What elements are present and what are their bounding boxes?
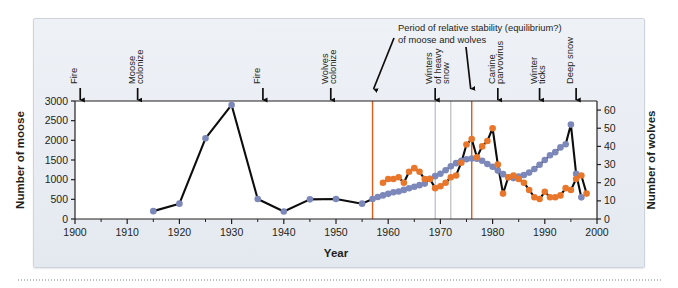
series-1-point-15 bbox=[458, 159, 465, 166]
y-axis-title-right: Number of wolves bbox=[645, 110, 657, 209]
event-label-3-line-1: colonize bbox=[327, 50, 338, 84]
xtick-label-1: 1910 bbox=[116, 226, 140, 238]
xtick-label-2: 1920 bbox=[168, 226, 192, 238]
ytick-label-left-4: 2000 bbox=[45, 134, 69, 146]
ytick-label-right-4: 40 bbox=[604, 140, 616, 152]
series-1-point-38 bbox=[578, 172, 585, 179]
series-1-point-17 bbox=[468, 136, 475, 143]
series-1-point-18 bbox=[474, 154, 481, 161]
series-0-point-46 bbox=[562, 141, 569, 148]
series-0-point-1 bbox=[176, 200, 183, 207]
series-1-point-20 bbox=[484, 138, 491, 145]
ytick-label-left-5: 2500 bbox=[45, 114, 69, 126]
xtick-label-0: 1900 bbox=[63, 226, 87, 238]
series-0-point-47 bbox=[568, 121, 575, 128]
equilibrium-annotation-line-1: of moose and wolves bbox=[398, 34, 486, 45]
series-0-point-44 bbox=[552, 149, 559, 156]
ytick-label-left-3: 1500 bbox=[45, 154, 69, 166]
ytick-label-right-2: 20 bbox=[604, 176, 616, 188]
series-0-point-41 bbox=[536, 161, 543, 168]
xtick-label-9: 1990 bbox=[533, 226, 557, 238]
y-axis-title-left: Number of moose bbox=[14, 111, 26, 209]
series-0-point-5 bbox=[281, 208, 288, 215]
ytick-label-right-0: 0 bbox=[604, 213, 610, 225]
series-1-point-21 bbox=[489, 125, 496, 132]
figure-container: 0500100015002000250030000102030405060190… bbox=[0, 0, 678, 288]
chart-svg: 0500100015002000250030000102030405060190… bbox=[0, 0, 678, 288]
ytick-label-right-1: 10 bbox=[604, 194, 616, 206]
event-label-0-line-0: Fire bbox=[68, 68, 79, 84]
event-label-1-line-1: colonize bbox=[134, 50, 145, 84]
xtick-label-4: 1940 bbox=[272, 226, 296, 238]
series-1-point-4 bbox=[401, 179, 408, 186]
series-1-point-19 bbox=[479, 143, 486, 150]
series-1-point-34 bbox=[557, 192, 564, 199]
equilibrium-arrow-left bbox=[374, 38, 394, 89]
ytick-label-left-6: 3000 bbox=[45, 95, 69, 107]
series-1-point-12 bbox=[442, 179, 449, 186]
series-1-point-14 bbox=[453, 172, 460, 179]
xtick-label-10: 2000 bbox=[585, 226, 609, 238]
equilibrium-arrow-right bbox=[466, 47, 471, 89]
series-0-point-4 bbox=[254, 196, 261, 203]
ytick-label-left-1: 500 bbox=[50, 193, 68, 205]
xtick-label-7: 1970 bbox=[429, 226, 453, 238]
series-0-point-0 bbox=[150, 208, 157, 215]
series-1-point-9 bbox=[427, 176, 434, 183]
series-0-point-6 bbox=[307, 196, 314, 203]
series-1-point-16 bbox=[463, 141, 470, 148]
xtick-label-6: 1960 bbox=[377, 226, 401, 238]
event-label-4-line-2: snow bbox=[440, 62, 451, 84]
series-1-point-28 bbox=[526, 187, 533, 194]
event-label-2-line-0: Fire bbox=[251, 68, 262, 84]
xtick-label-8: 1980 bbox=[481, 226, 505, 238]
series-1-point-31 bbox=[542, 188, 549, 195]
ytick-label-right-5: 50 bbox=[604, 122, 616, 134]
series-1-point-30 bbox=[536, 196, 543, 203]
ytick-label-left-0: 0 bbox=[62, 213, 68, 225]
xtick-label-5: 1950 bbox=[324, 226, 348, 238]
series-1-point-23 bbox=[500, 190, 507, 197]
ytick-label-right-3: 30 bbox=[604, 158, 616, 170]
series-0-point-40 bbox=[531, 166, 538, 173]
series-1-point-39 bbox=[583, 190, 590, 197]
series-0-point-8 bbox=[359, 200, 366, 207]
equilibrium-annotation-line-0: Period of relative stability (equilibriu… bbox=[398, 22, 562, 33]
series-0-point-42 bbox=[542, 157, 549, 164]
series-0-point-3 bbox=[228, 102, 235, 109]
series-0-point-2 bbox=[202, 135, 209, 142]
series-1-point-22 bbox=[495, 161, 502, 168]
series-1-point-7 bbox=[416, 169, 423, 176]
event-label-5-line-1: parvovirus bbox=[494, 40, 505, 84]
series-0-point-23 bbox=[442, 167, 449, 174]
event-label-7-line-0: Deep snow bbox=[564, 37, 575, 84]
series-0-point-7 bbox=[333, 196, 340, 203]
x-axis-title: Year bbox=[324, 247, 349, 259]
xtick-label-3: 1930 bbox=[220, 226, 244, 238]
series-1-point-3 bbox=[395, 174, 402, 181]
ytick-label-right-6: 60 bbox=[604, 104, 616, 116]
series-1-point-27 bbox=[521, 179, 528, 186]
series-1-point-36 bbox=[568, 187, 575, 194]
ytick-label-left-2: 1000 bbox=[45, 173, 69, 185]
event-label-6-line-1: ticks bbox=[536, 65, 547, 84]
